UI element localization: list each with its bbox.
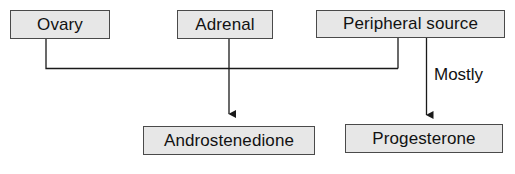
- node-ovary-label: Ovary: [37, 16, 83, 34]
- connector-ovary-to-bus: [46, 39, 398, 69]
- edge-label-mostly: Mostly: [434, 66, 483, 83]
- node-progesterone-label: Progesterone: [372, 130, 475, 148]
- node-progesterone[interactable]: Progesterone: [345, 124, 503, 153]
- node-peripheral-source-label: Peripheral source: [343, 15, 478, 33]
- node-androstenedione-label: Androstenedione: [164, 132, 294, 150]
- node-adrenal[interactable]: Adrenal: [177, 10, 273, 39]
- node-ovary[interactable]: Ovary: [10, 10, 110, 39]
- diagram-canvas: Ovary Adrenal Peripheral source Androste…: [0, 0, 515, 174]
- node-peripheral-source[interactable]: Peripheral source: [316, 10, 505, 38]
- node-androstenedione[interactable]: Androstenedione: [143, 126, 315, 155]
- node-adrenal-label: Adrenal: [195, 16, 254, 34]
